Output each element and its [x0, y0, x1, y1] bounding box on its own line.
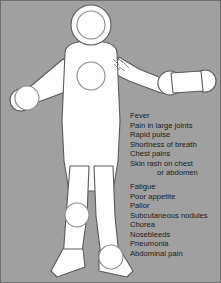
- symptom-list-item: Nosebleeds: [130, 230, 221, 240]
- symptom-list-item: Poor appetite: [130, 192, 221, 202]
- symptom-list-item: Chorea: [130, 220, 221, 230]
- symptoms-figure-panel: FeverPain in large jointsRapid pulseShor…: [0, 0, 221, 283]
- symptom-list-item: Fatigue: [130, 182, 221, 192]
- symptom-list-item: Abdominal pain: [130, 249, 221, 259]
- symptom-list-item: Pallor: [130, 201, 221, 211]
- right-knee-joint: [99, 245, 123, 269]
- symptom-list-item: Pneumonia: [130, 239, 221, 249]
- symptom-list-item: or abdomen: [130, 168, 221, 178]
- symptom-list-item: Subcutaneous nodules: [130, 211, 221, 221]
- symptom-list-item: Rapid pulse: [130, 130, 221, 140]
- left-knee-joint: [65, 203, 89, 227]
- symptom-list-item: Skin rash on chest: [130, 159, 221, 169]
- symptom-list-item: Fever: [130, 111, 221, 121]
- left-elbow-joint: [15, 86, 39, 110]
- symptom-list: FeverPain in large jointsRapid pulseShor…: [130, 111, 221, 258]
- right-forearm: [171, 71, 203, 93]
- symptom-list-item: Chest pains: [130, 149, 221, 159]
- left-foot: [51, 249, 85, 277]
- symptom-list-item: Pain in large joints: [130, 121, 221, 131]
- symptom-list-item: Shortness of breath: [130, 140, 221, 150]
- chest-circle: [77, 62, 105, 90]
